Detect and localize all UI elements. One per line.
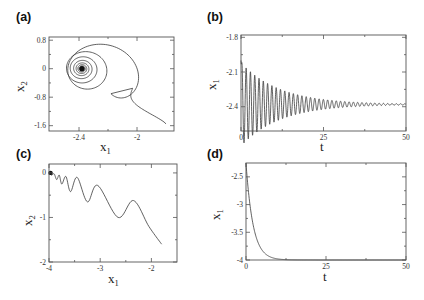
y-tick-label: -2 [40, 258, 46, 267]
x-tick-label: -4 [46, 264, 52, 273]
panel-d-xlabel: t [323, 269, 327, 284]
y-tick-label: -1.8 [226, 33, 238, 42]
panel-a-ylabel: x2 [12, 81, 29, 92]
x-tick-label: -2 [148, 264, 154, 273]
y-tick-label: -2.4 [226, 102, 238, 111]
panel-c: (c) -4-3-20-1-2 x1 x2 [16, 147, 177, 288]
y-tick-label: 0 [42, 64, 46, 73]
y-tick-label: -0.8 [34, 93, 46, 102]
figure: (a) -2.4-20.80-0.8-1.6 x1 x2 (b) 02550-1… [0, 0, 424, 300]
data-curve [246, 163, 406, 260]
panel-d-plot-area [246, 163, 406, 260]
data-curve [49, 173, 162, 244]
fixed-point-marker [79, 66, 84, 71]
y-tick-label: -3 [237, 200, 243, 209]
x-tick-label: -2.4 [73, 133, 85, 142]
data-curve [66, 44, 166, 124]
panel-a-xlabel: x1 [100, 139, 111, 156]
x-tick-label: -2 [134, 133, 140, 142]
panel-b: (b) 02550-1.8-2.1-2.4 t x1 [204, 10, 410, 154]
x-tick-label: 50 [402, 262, 410, 271]
y-tick-label: -1.6 [34, 121, 46, 130]
panel-d-ticks: 02550-2.5-3-3.5-4 [231, 163, 410, 271]
y-tick-label: -3.5 [231, 228, 243, 237]
panel-b-xlabel: t [320, 139, 324, 154]
panel-a: (a) -2.4-20.80-0.8-1.6 x1 x2 [12, 10, 174, 156]
panel-a-label: (a) [16, 10, 31, 24]
panel-b-label: (b) [207, 10, 223, 24]
x-tick-label: 0 [244, 262, 248, 271]
x-tick-label: 50 [402, 133, 410, 142]
y-tick-label: -2.1 [226, 68, 238, 77]
panel-c-ylabel: x2 [20, 215, 37, 226]
panel-a-ticks: -2.4-20.80-0.8-1.6 [34, 36, 174, 142]
y-tick-label: 0 [42, 168, 46, 177]
panel-c-frame [49, 164, 177, 262]
y-tick-label: -2.5 [231, 172, 243, 181]
panel-c-xlabel: x1 [108, 271, 119, 288]
panel-b-ylabel: x1 [204, 79, 221, 90]
panel-d: (d) 02550-2.5-3-3.5-4 t x1 [207, 147, 410, 284]
y-tick-label: -4 [237, 256, 243, 265]
panel-d-label: (d) [207, 147, 223, 161]
x-tick-label: -3 [97, 264, 103, 273]
y-tick-label: -1 [40, 213, 46, 222]
panel-d-frame [246, 163, 406, 260]
panel-d-ylabel: x1 [208, 209, 225, 220]
panel-c-label: (c) [16, 147, 31, 161]
y-tick-label: 0.8 [37, 36, 47, 45]
panel-a-plot-area [66, 44, 166, 124]
panel-c-plot-area [48, 171, 161, 244]
x-tick-label: 0 [239, 133, 243, 142]
